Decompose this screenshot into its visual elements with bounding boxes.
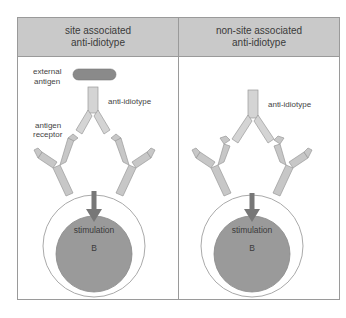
diagram-canvas: external antigen anti-idiotype antigen r… xyxy=(0,0,346,318)
label-anti-idiotype: anti-idiotype xyxy=(108,97,152,106)
antigen-receptor-icon xyxy=(192,136,312,196)
anti-idiotype-antibody-icon xyxy=(232,90,274,143)
left-diagram: external antigen anti-idiotype antigen r… xyxy=(33,67,155,297)
anti-idiotype-antibody-icon xyxy=(76,87,110,134)
label-stimulation: stimulation xyxy=(74,225,115,235)
external-antigen-icon xyxy=(73,69,116,80)
label-external: external xyxy=(33,67,62,76)
right-diagram: anti-idiotype stimulation B xyxy=(192,90,312,297)
label-stimulation: stimulation xyxy=(232,225,273,235)
label-antigen-receptor-2: receptor xyxy=(33,130,63,139)
label-antigen: antigen xyxy=(34,77,60,86)
label-antigen-receptor-1: antigen xyxy=(35,121,61,130)
antigen-receptor-icon xyxy=(34,134,155,196)
label-anti-idiotype: anti-idiotype xyxy=(268,100,312,109)
label-b-cell: B xyxy=(249,243,255,253)
label-b-cell: B xyxy=(91,243,97,253)
